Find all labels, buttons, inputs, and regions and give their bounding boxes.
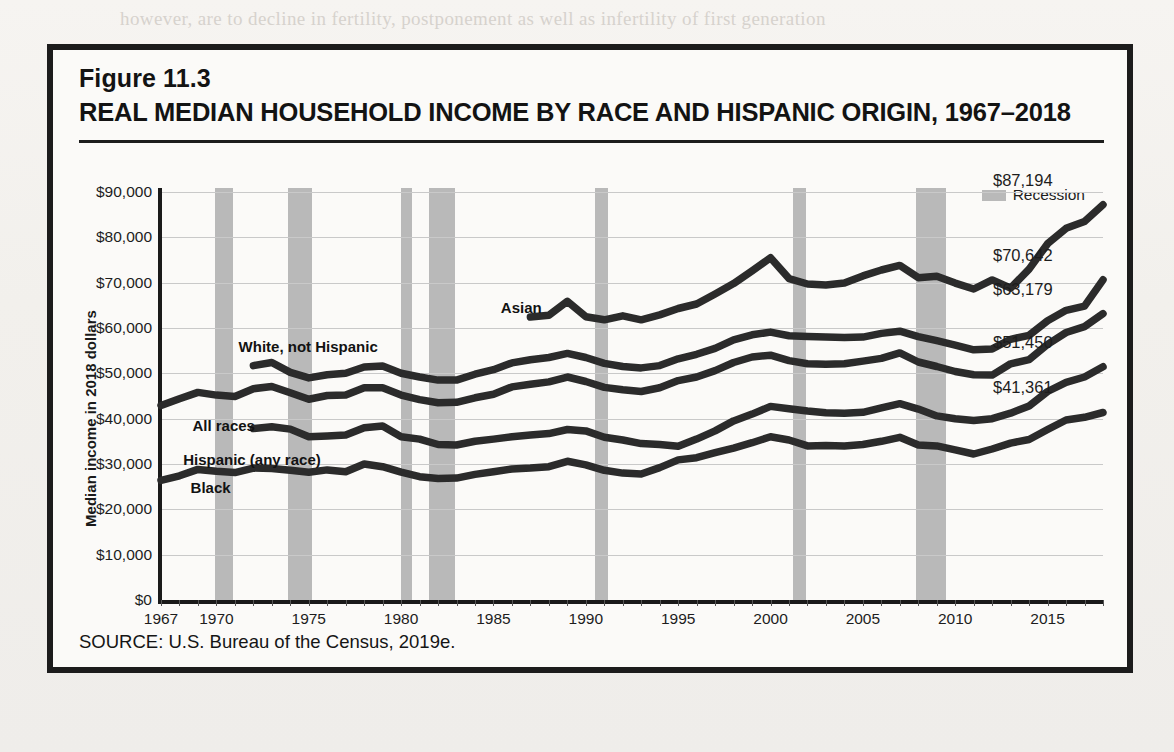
series-label-asian: Asian — [501, 299, 542, 316]
x-axis-tick — [918, 600, 919, 606]
y-axis-tick-label: $30,000 — [66, 455, 161, 473]
x-axis-tick — [1029, 600, 1030, 606]
x-axis-tick — [955, 600, 956, 606]
x-axis-tick — [567, 600, 568, 606]
x-axis-tick — [715, 600, 716, 606]
x-axis-tick-label: 2000 — [753, 610, 787, 628]
x-axis-tick — [678, 600, 679, 606]
x-axis-tick — [401, 600, 402, 606]
x-axis-tick — [937, 600, 938, 606]
y-axis-tick-label: $10,000 — [66, 546, 161, 564]
x-axis-tick-label: 1990 — [569, 610, 603, 628]
x-axis-tick — [789, 600, 790, 606]
plot-region: Recession $90,000$80,000$70,000$60,000$5… — [161, 192, 1103, 600]
x-axis-tick-label: 1995 — [661, 610, 695, 628]
chart-area: Median income in 2018 dollars Recession … — [53, 150, 1127, 667]
x-axis-tick-label: 2010 — [938, 610, 972, 628]
source-note: SOURCE: U.S. Bureau of the Census, 2019e… — [79, 631, 455, 653]
x-axis-tick — [253, 600, 254, 606]
x-axis-tick — [1103, 600, 1104, 606]
end-value-label: $63,179 — [993, 280, 1053, 299]
x-axis-tick — [383, 600, 384, 606]
x-axis-tick — [179, 600, 180, 606]
x-axis-tick — [697, 600, 698, 606]
x-axis-tick — [530, 600, 531, 606]
x-axis-tick-label: 2005 — [846, 610, 880, 628]
series-label-hispanic-any-race: Hispanic (any race) — [183, 451, 321, 468]
figure-box: Figure 11.3 REAL MEDIAN HOUSEHOLD INCOME… — [47, 44, 1133, 673]
x-axis-tick-label: 1980 — [384, 610, 418, 628]
end-value-label: $41,361 — [993, 378, 1053, 397]
x-axis-tick — [346, 600, 347, 606]
x-axis-tick — [309, 600, 310, 606]
x-axis-tick — [844, 600, 845, 606]
series-line — [253, 280, 1103, 380]
x-axis-tick — [771, 600, 772, 606]
y-axis-tick-label: $80,000 — [66, 228, 161, 246]
x-axis-tick — [1066, 600, 1067, 606]
y-axis-tick-label: $50,000 — [66, 364, 161, 382]
series-label-all-races: All races — [192, 417, 255, 434]
x-axis-tick-label: 1970 — [199, 610, 233, 628]
x-axis-tick — [752, 600, 753, 606]
x-axis-tick — [216, 600, 217, 606]
x-axis-tick-label: 1967 — [144, 610, 178, 628]
x-axis-tick — [457, 600, 458, 606]
x-axis-tick — [493, 600, 494, 606]
figure-title: REAL MEDIAN HOUSEHOLD INCOME BY RACE AND… — [79, 98, 1071, 127]
x-axis-tick — [235, 600, 236, 606]
scanned-book-page: however, are to decline in fertility, po… — [0, 0, 1174, 752]
x-axis-tick — [734, 600, 735, 606]
series-label-black: Black — [191, 479, 231, 496]
x-axis-tick — [1085, 600, 1086, 606]
title-divider — [79, 140, 1104, 143]
end-value-label: $51,450 — [993, 333, 1053, 352]
y-axis-tick-label: $60,000 — [66, 319, 161, 337]
x-axis-tick — [549, 600, 550, 606]
x-axis-tick — [327, 600, 328, 606]
background-text-line: however, are to decline in fertility, po… — [120, 8, 826, 30]
x-axis-tick — [641, 600, 642, 606]
x-axis-line — [158, 600, 1104, 604]
y-axis-tick-label: $20,000 — [66, 500, 161, 518]
x-axis-tick — [420, 600, 421, 606]
x-axis-tick — [660, 600, 661, 606]
x-axis-tick — [512, 600, 513, 606]
end-value-label: $87,194 — [993, 171, 1053, 190]
x-axis-tick — [198, 600, 199, 606]
x-axis-tick — [992, 600, 993, 606]
series-line — [161, 314, 1103, 406]
y-axis-tick-label: $40,000 — [66, 410, 161, 428]
data-lines — [161, 192, 1103, 600]
x-axis-tick — [438, 600, 439, 606]
x-axis-tick — [623, 600, 624, 606]
x-axis-tick — [881, 600, 882, 606]
x-axis-tick — [974, 600, 975, 606]
x-axis-tick — [1011, 600, 1012, 606]
end-value-label: $70,642 — [993, 246, 1053, 265]
x-axis-tick — [807, 600, 808, 606]
y-axis-tick-label: $0 — [66, 591, 161, 609]
x-axis-tick — [364, 600, 365, 606]
x-axis-tick — [586, 600, 587, 606]
series-label-white-not-hispanic: White, not Hispanic — [239, 338, 378, 355]
x-axis-tick — [272, 600, 273, 606]
x-axis-tick — [826, 600, 827, 606]
y-axis-tick-label: $90,000 — [66, 183, 161, 201]
x-axis-tick-label: 2015 — [1030, 610, 1064, 628]
x-axis-tick — [475, 600, 476, 606]
x-axis-tick — [161, 600, 162, 606]
x-axis-tick — [290, 600, 291, 606]
x-axis-tick — [604, 600, 605, 606]
x-axis-tick — [863, 600, 864, 606]
x-axis-tick-label: 1975 — [292, 610, 326, 628]
y-axis-tick-label: $70,000 — [66, 274, 161, 292]
x-axis-tick-label: 1985 — [476, 610, 510, 628]
x-axis-tick — [1048, 600, 1049, 606]
x-axis-tick — [900, 600, 901, 606]
figure-number: Figure 11.3 — [79, 64, 211, 93]
